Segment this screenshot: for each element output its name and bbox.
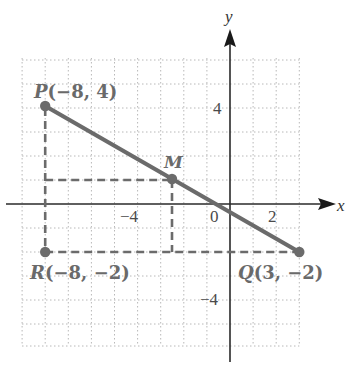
point-R xyxy=(40,247,50,257)
point-Q xyxy=(294,247,304,257)
point-P xyxy=(40,101,50,111)
y-axis xyxy=(224,29,236,362)
label-R: R(−8, −2) xyxy=(29,262,130,283)
label-Q: Q(3, −2) xyxy=(238,262,323,283)
label-P: P(−8, 4) xyxy=(33,81,117,102)
y-axis-label: y xyxy=(223,7,233,26)
x-axis-label: x xyxy=(336,196,345,215)
tick-y-neg4: −4 xyxy=(200,290,219,309)
tick-x-neg4: −4 xyxy=(120,207,139,226)
point-M xyxy=(167,174,177,184)
tick-x-2: 2 xyxy=(268,207,277,226)
label-M: M xyxy=(163,152,184,172)
coordinate-plane: P(−8, 4) M R(−8, −2) Q(3, −2) x y −4 0 2… xyxy=(0,0,349,374)
tick-x-0: 0 xyxy=(210,207,219,226)
tick-y-4: 4 xyxy=(213,99,222,118)
